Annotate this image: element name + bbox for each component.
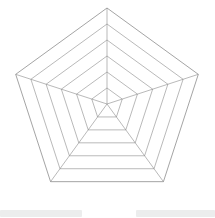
footer-placeholder-bar-left: [0, 210, 82, 217]
footer-placeholder-bars: [0, 208, 215, 218]
radar-spoke-5: [16, 74, 107, 104]
radar-chart-panel: [0, 0, 215, 218]
radar-spoke-2: [107, 74, 198, 104]
footer-placeholder-bar-right: [136, 210, 215, 217]
radar-chart-svg: [0, 0, 215, 218]
